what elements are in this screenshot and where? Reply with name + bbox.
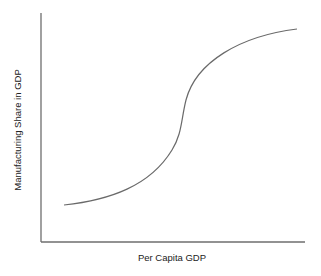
x-axis-label: Per Capita GDP [138, 252, 206, 263]
y-axis-label: Manufacturing Share in GDP [12, 69, 23, 190]
chart: Per Capita GDP Manufacturing Share in GD… [0, 0, 321, 276]
s-curve-line [64, 29, 297, 205]
